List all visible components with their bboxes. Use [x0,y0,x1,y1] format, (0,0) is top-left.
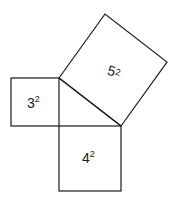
triangle-hypotenuse [59,78,121,126]
label-4-squared: 42 [82,149,95,166]
label-5-squared: 52 [106,62,123,81]
pythagorean-diagram: 32 42 52 [0,0,175,210]
label-3-squared: 32 [27,94,40,111]
